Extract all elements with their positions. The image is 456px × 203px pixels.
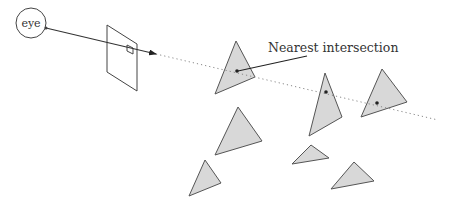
- hit-point-tri-3: [375, 101, 379, 105]
- triangle-tri-3: [361, 69, 407, 117]
- nearest-intersection-label: Nearest intersection: [268, 40, 398, 55]
- triangle-tri-5: [189, 160, 221, 196]
- primary-ray-arrow: [46, 28, 156, 54]
- triangle-tri-4: [215, 107, 262, 155]
- triangle-tri-2: [309, 73, 342, 136]
- ray-casting-diagram: eye Nearest intersection: [0, 0, 456, 203]
- image-plane: [107, 25, 137, 91]
- pixel-square: [127, 45, 133, 54]
- intersection-points: [235, 69, 379, 105]
- triangle-tri-1: [215, 41, 255, 94]
- triangle-tri-7: [331, 162, 374, 189]
- eye-label: eye: [21, 17, 40, 30]
- triangle-group: [189, 41, 407, 196]
- triangle-tri-6: [292, 145, 329, 164]
- hit-point-tri-2: [324, 90, 328, 94]
- diagram-svg: eye Nearest intersection: [0, 0, 456, 203]
- ray-origin-dot: [45, 27, 48, 30]
